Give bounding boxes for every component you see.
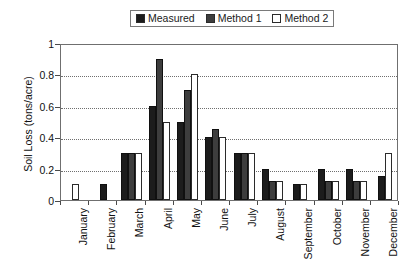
legend-swatch-measured: [136, 14, 145, 23]
bar-method2: [219, 137, 226, 200]
bar-measured: [100, 184, 107, 200]
x-tick-label: September: [303, 208, 314, 259]
bar-group: [286, 45, 314, 200]
x-tick-label: November: [360, 208, 371, 256]
bar-method1: [212, 129, 219, 200]
bar-measured: [205, 137, 212, 200]
y-tick-label: 0.2: [14, 165, 54, 176]
bar-method2: [72, 184, 79, 200]
bar-group: [146, 45, 174, 200]
bar-method2: [248, 153, 255, 200]
y-tick-label: 0.4: [14, 133, 54, 144]
y-tick-label: 1: [14, 39, 54, 50]
bar-measured: [262, 169, 269, 200]
bar-method1: [269, 181, 276, 200]
x-tick-mark: [145, 201, 146, 205]
legend-swatch-method-2: [272, 14, 281, 23]
plot-area: [60, 44, 398, 201]
legend-label-method-2: Method 2: [284, 13, 328, 24]
x-tick-mark: [314, 201, 315, 205]
x-tick-label: May: [191, 208, 202, 228]
bar-group: [174, 45, 202, 200]
x-tick-mark: [285, 201, 286, 205]
bar-method1: [353, 181, 360, 200]
legend-item-measured: Measured: [136, 13, 195, 24]
x-tick-mark: [370, 201, 371, 205]
legend-label-method-1: Method 1: [218, 13, 262, 24]
x-tick-mark: [229, 201, 230, 205]
x-tick-label: July: [247, 208, 258, 227]
bar-measured: [318, 169, 325, 200]
x-tick-mark: [116, 201, 117, 205]
bar-measured: [149, 106, 156, 200]
bar-measured: [378, 176, 385, 200]
x-tick-label: October: [332, 208, 343, 245]
bar-method1: [325, 181, 332, 200]
x-tick-mark: [88, 201, 89, 205]
bar-method1: [128, 153, 135, 200]
x-tick-label: June: [219, 208, 230, 231]
legend-swatch-method-1: [206, 14, 215, 23]
bar-method1: [184, 90, 191, 200]
x-tick-label: January: [78, 208, 89, 245]
bar-method2: [385, 153, 392, 200]
y-tick-label: 0.6: [14, 102, 54, 113]
x-tick-mark: [257, 201, 258, 205]
chart-legend: Measured Method 1 Method 2: [130, 10, 334, 27]
bar-method2: [300, 184, 307, 200]
x-tick-label: March: [134, 208, 145, 237]
x-tick-label: August: [275, 208, 286, 241]
y-tick-label: 0.8: [14, 70, 54, 81]
bar-group: [202, 45, 230, 200]
x-tick-mark: [342, 201, 343, 205]
x-tick-mark: [60, 201, 61, 205]
bar-method2: [276, 181, 283, 200]
soil-loss-bar-chart: Measured Method 1 Method 2 Soil Loss (to…: [0, 0, 407, 272]
bar-group: [371, 45, 399, 200]
x-tick-label: February: [106, 208, 117, 250]
bar-measured: [346, 169, 353, 200]
x-tick-mark: [201, 201, 202, 205]
legend-item-method-2: Method 2: [272, 13, 328, 24]
x-tick-label: December: [388, 208, 399, 256]
bar-method2: [360, 181, 367, 200]
bar-method1: [241, 153, 248, 200]
bar-method2: [163, 122, 170, 201]
legend-label-measured: Measured: [148, 13, 195, 24]
bar-measured: [293, 184, 300, 200]
x-tick-mark: [173, 201, 174, 205]
bar-group: [258, 45, 286, 200]
bar-group: [343, 45, 371, 200]
x-tick-label: April: [163, 208, 174, 229]
bar-group: [61, 45, 89, 200]
bar-method2: [332, 181, 339, 200]
legend-item-method-1: Method 1: [206, 13, 262, 24]
bar-measured: [121, 153, 128, 200]
bar-method1: [156, 59, 163, 200]
bar-method2: [191, 74, 198, 200]
x-tick-mark: [398, 201, 399, 205]
bar-group: [230, 45, 258, 200]
y-tick-label: 0: [14, 196, 54, 207]
bar-group: [89, 45, 117, 200]
bar-method2: [135, 153, 142, 200]
bar-measured: [234, 153, 241, 200]
bars-layer: [61, 45, 397, 200]
bar-group: [117, 45, 145, 200]
bar-group: [315, 45, 343, 200]
bar-measured: [177, 122, 184, 201]
